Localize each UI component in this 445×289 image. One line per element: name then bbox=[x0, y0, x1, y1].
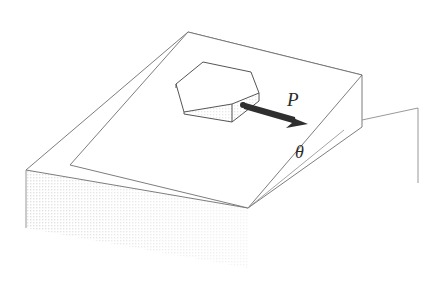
reference-wall-line bbox=[362, 108, 418, 183]
force-label-P: P bbox=[287, 90, 299, 109]
angle-label-theta: θ bbox=[295, 143, 304, 161]
incline-top-face bbox=[70, 32, 362, 208]
figure-canvas bbox=[0, 0, 445, 289]
incline-wedge bbox=[70, 32, 362, 208]
force-arrow-tail-dot bbox=[240, 102, 246, 108]
physics-figure: P θ bbox=[0, 0, 445, 289]
reference-wall bbox=[362, 108, 418, 183]
